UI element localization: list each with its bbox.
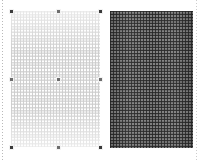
- handle-top-center[interactable]: [56, 9, 61, 14]
- texture-swatch-dark[interactable]: [110, 11, 193, 148]
- handle-middle-left[interactable]: [9, 77, 14, 82]
- handle-middle-right[interactable]: [98, 77, 103, 82]
- handle-middle-center[interactable]: [56, 77, 61, 82]
- weave-pattern-dark: [110, 11, 193, 148]
- handle-bottom-center[interactable]: [56, 145, 61, 150]
- handle-bottom-left[interactable]: [9, 145, 14, 150]
- guide-line-left[interactable]: [2, 0, 3, 160]
- editor-canvas[interactable]: [0, 0, 204, 160]
- guide-line-right[interactable]: [196, 0, 197, 160]
- handle-bottom-right[interactable]: [98, 145, 103, 150]
- handle-top-left[interactable]: [9, 9, 14, 14]
- handle-top-right[interactable]: [98, 9, 103, 14]
